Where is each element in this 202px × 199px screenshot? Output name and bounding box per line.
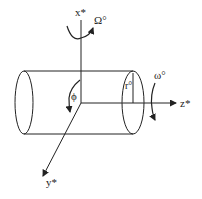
y-axis <box>43 103 81 176</box>
cylinder-coordinate-diagram: x* Ω° ω° z* y* ϕ r° <box>0 0 202 199</box>
axes <box>43 20 176 176</box>
y-axis-label: y* <box>46 176 57 188</box>
small-omega-rotation-arrow <box>151 83 155 120</box>
z-axis-label: z* <box>180 97 190 109</box>
radius-label: r° <box>125 80 132 91</box>
big-omega-label: Ω° <box>94 14 107 26</box>
small-omega-label: ω° <box>154 69 166 81</box>
rotation-arrows <box>67 26 155 120</box>
big-omega-rotation-arrow <box>67 26 93 39</box>
x-axis-label: x* <box>75 6 86 18</box>
cylinder-left-end <box>15 71 33 134</box>
phi-label: ϕ <box>71 90 77 102</box>
